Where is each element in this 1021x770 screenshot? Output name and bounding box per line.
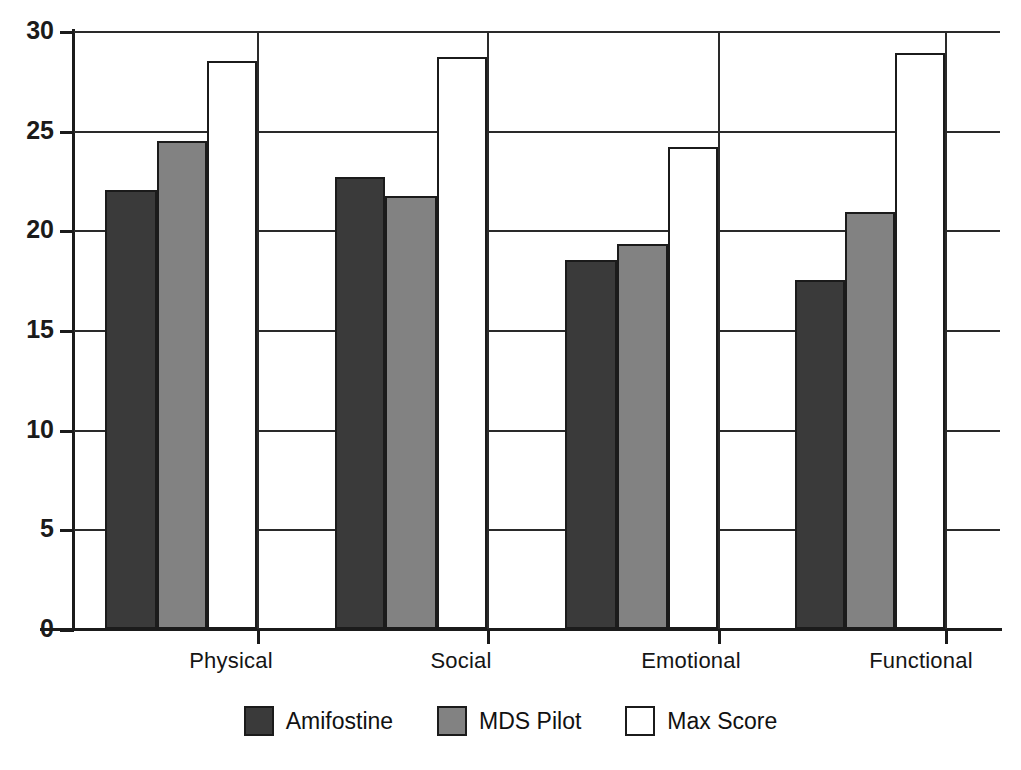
y-tick-label: 15 [6, 317, 54, 342]
x-axis-label-functional: Functional [821, 648, 1021, 674]
x-tick-mark [718, 630, 721, 644]
y-tick-mark [60, 430, 74, 433]
bar-physical-mds-pilot [157, 141, 207, 629]
bar-social-mds-pilot [385, 196, 437, 629]
y-tick-label: 25 [6, 118, 54, 143]
bar-emotional-amifostine [565, 260, 617, 629]
y-tick-mark [60, 31, 74, 34]
bar-social-max-score [437, 57, 487, 629]
group-separator [257, 31, 259, 629]
x-tick-mark [487, 630, 490, 644]
bar-physical-amifostine [105, 190, 157, 629]
legend-swatch-mds-pilot [437, 706, 467, 736]
bar-emotional-max-score [668, 147, 718, 629]
legend-item-amifostine[interactable]: Amifostine [244, 706, 393, 736]
legend-label: Max Score [667, 708, 777, 735]
x-axis-label-physical: Physical [131, 648, 331, 674]
y-tick-label: 0 [6, 616, 54, 641]
bar-physical-max-score [207, 61, 257, 629]
bar-social-amifostine [335, 177, 385, 629]
bar-emotional-mds-pilot [617, 244, 668, 629]
y-tick-mark [60, 230, 74, 233]
chart-legend: AmifostineMDS PilotMax Score [0, 706, 1021, 736]
plot-area [74, 31, 1000, 629]
x-axis-label-social: Social [361, 648, 561, 674]
bar-functional-max-score [895, 53, 945, 629]
legend-item-mds-pilot[interactable]: MDS Pilot [437, 706, 581, 736]
x-tick-mark [945, 630, 948, 644]
group-separator [718, 31, 720, 629]
y-tick-mark [60, 131, 74, 134]
legend-swatch-amifostine [244, 706, 274, 736]
legend-label: MDS Pilot [479, 708, 581, 735]
y-tick-mark [60, 629, 74, 632]
group-separator [487, 31, 489, 629]
group-separator [945, 31, 947, 629]
legend-swatch-max-score [625, 706, 655, 736]
x-tick-mark [257, 630, 260, 644]
bar-chart: 051015202530 PhysicalSocialEmotionalFunc… [0, 0, 1021, 770]
gridline [74, 31, 1000, 33]
y-tick-label: 10 [6, 417, 54, 442]
y-tick-mark [60, 330, 74, 333]
y-tick-label: 20 [6, 217, 54, 242]
bar-functional-mds-pilot [845, 212, 895, 629]
y-tick-mark [60, 529, 74, 532]
legend-item-max-score[interactable]: Max Score [625, 706, 777, 736]
y-tick-label: 5 [6, 516, 54, 541]
bar-functional-amifostine [795, 280, 845, 629]
y-tick-label: 30 [6, 18, 54, 43]
x-axis-label-emotional: Emotional [591, 648, 791, 674]
legend-label: Amifostine [286, 708, 393, 735]
